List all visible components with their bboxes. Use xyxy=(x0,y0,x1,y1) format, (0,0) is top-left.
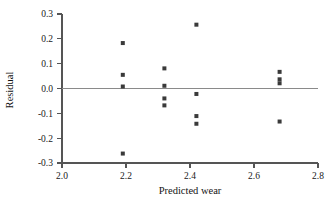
x-axis-tick-mark-group xyxy=(62,163,318,168)
residual-plot-figure: -0.3-0.2-0.10.00.10.20.3 2.02.22.42.62.8… xyxy=(0,0,330,205)
y-axis-tick-label: 0.0 xyxy=(41,84,53,94)
data-point xyxy=(278,81,282,85)
data-point xyxy=(194,122,198,126)
data-point xyxy=(162,96,166,100)
data-point xyxy=(121,152,125,156)
data-point xyxy=(278,120,282,124)
y-axis-title: Residual xyxy=(4,72,15,109)
data-point xyxy=(121,41,125,45)
data-point xyxy=(194,92,198,96)
y-axis-tick-label: -0.2 xyxy=(38,134,53,144)
y-axis-tick-label: -0.3 xyxy=(38,158,53,168)
x-axis-tick-label: 2.4 xyxy=(184,171,196,181)
data-point xyxy=(121,73,125,77)
data-point xyxy=(194,23,198,27)
scatter-plot-canvas: -0.3-0.2-0.10.00.10.20.3 2.02.22.42.62.8… xyxy=(0,0,330,205)
y-axis-tick-label: -0.1 xyxy=(38,109,53,119)
data-point xyxy=(278,70,282,74)
y-axis-tick-label-group: -0.3-0.2-0.10.00.10.20.3 xyxy=(38,9,53,168)
y-axis-tick-label: 0.2 xyxy=(41,34,53,44)
data-point xyxy=(162,103,166,107)
x-axis-title: Predicted wear xyxy=(159,185,222,196)
y-axis-tick-mark-group xyxy=(57,14,62,163)
data-point-group xyxy=(121,23,282,156)
data-point xyxy=(278,77,282,81)
x-axis-tick-label-group: 2.02.22.42.62.8 xyxy=(56,171,324,181)
data-point xyxy=(162,66,166,70)
data-point xyxy=(162,84,166,88)
x-axis-tick-label: 2.0 xyxy=(56,171,68,181)
y-axis-tick-label: 0.1 xyxy=(41,59,53,69)
data-point xyxy=(194,114,198,118)
y-axis-tick-label: 0.3 xyxy=(41,9,53,19)
x-axis-tick-label: 2.8 xyxy=(312,171,324,181)
x-axis-tick-label: 2.2 xyxy=(120,171,132,181)
x-axis-tick-label: 2.6 xyxy=(248,171,260,181)
data-point xyxy=(121,85,125,89)
